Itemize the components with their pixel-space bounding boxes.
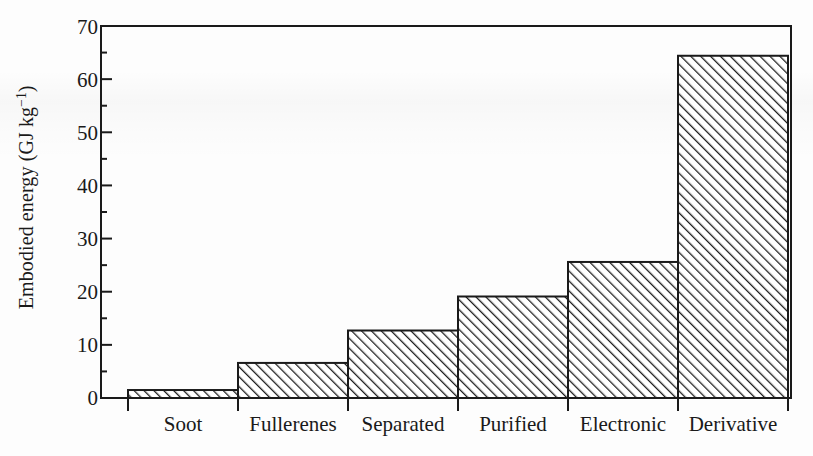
- bar-derivative: [678, 56, 788, 398]
- bar-purified: [458, 296, 568, 398]
- bar-separated: [348, 331, 458, 398]
- bar-soot: [128, 390, 238, 398]
- y-axis-ticks: [101, 26, 112, 398]
- bar-fullerenes: [238, 363, 348, 398]
- bar-series: [128, 56, 788, 398]
- plot-area: [0, 0, 813, 456]
- chart-figure: Embodied energy (GJ kg−1) 0 10 20 30 40 …: [0, 0, 813, 456]
- bar-electronic: [568, 262, 678, 398]
- x-axis-ticks: [128, 398, 788, 411]
